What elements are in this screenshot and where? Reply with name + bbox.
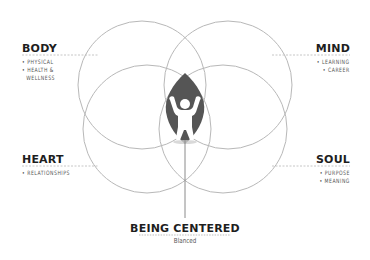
- quadrant-item: • MEANING: [319, 177, 350, 185]
- quadrant-title-soul: SOUL: [314, 154, 350, 166]
- quadrant-item: • HEALTH &: [22, 66, 55, 74]
- center-subtitle: Blanced: [0, 237, 370, 245]
- quadrant-item: WELLNESS: [22, 74, 55, 82]
- quadrant-soul: SOUL • PURPOSE • MEANING: [314, 154, 350, 185]
- center-subtitle-text: Blanced: [174, 237, 196, 245]
- quadrant-title-body: BODY: [22, 43, 61, 55]
- quadrant-item: • LEARNING: [317, 58, 350, 66]
- quadrant-item: • PHYSICAL: [22, 58, 55, 66]
- quadrant-title-mind: MIND: [311, 43, 350, 55]
- quadrant-item: • PURPOSE: [319, 169, 350, 177]
- quadrant-item: • CAREER: [317, 66, 350, 74]
- center-title: BEING CENTERED: [0, 222, 370, 235]
- quadrant-heart: HEART • RELATIONSHIPS: [22, 154, 78, 177]
- quadrant-item: • RELATIONSHIPS: [22, 169, 70, 177]
- quadrant-mind: MIND • LEARNING • CAREER: [311, 43, 350, 74]
- quadrant-body: BODY • PHYSICAL • HEALTH & WELLNESS: [22, 43, 61, 82]
- quadrant-title-heart: HEART: [22, 154, 78, 166]
- venn-diagram: [0, 0, 370, 260]
